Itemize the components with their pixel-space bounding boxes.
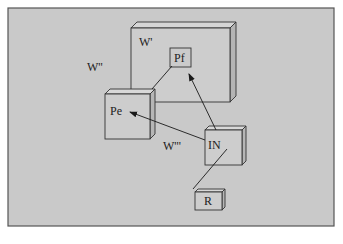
label-lower-region: W''' bbox=[163, 139, 181, 153]
label-node-in: IN bbox=[208, 138, 221, 152]
label-node-pe: Pe bbox=[110, 104, 122, 118]
label-outer-region: W'' bbox=[87, 60, 103, 74]
diagram-canvas: W'' W' W''' Pf Pe IN R bbox=[0, 0, 343, 244]
label-node-r: R bbox=[204, 194, 212, 208]
label-node-pf: Pf bbox=[174, 51, 185, 65]
label-inner-region: W' bbox=[139, 35, 153, 49]
